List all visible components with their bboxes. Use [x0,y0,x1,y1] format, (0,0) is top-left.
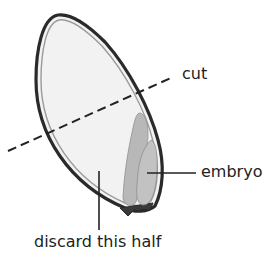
seed-diagram [0,0,275,259]
cut-label: cut [182,66,207,82]
embryo-label: embryo [201,164,262,180]
discard-label: discard this half [34,234,161,250]
